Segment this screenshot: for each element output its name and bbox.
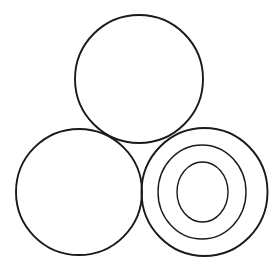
bottom-left-circle — [16, 129, 142, 255]
top-circle — [75, 15, 203, 143]
bottom-right-inner-ring — [177, 162, 228, 222]
bottom-right-middle-ring — [158, 145, 246, 239]
circles-diagram — [0, 0, 279, 271]
bottom-right-outer-circle — [142, 128, 268, 256]
figure-canvas — [0, 0, 279, 271]
